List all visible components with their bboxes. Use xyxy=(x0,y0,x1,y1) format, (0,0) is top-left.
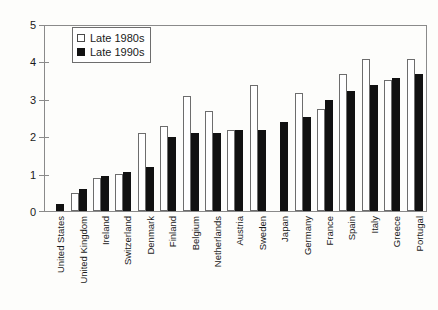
bar-group xyxy=(359,26,381,211)
legend-item: Late 1990s xyxy=(77,45,144,59)
bar-late-1990s xyxy=(347,91,355,211)
bar-late-1980s xyxy=(317,109,325,211)
bar-late-1990s xyxy=(191,133,199,211)
bar-group xyxy=(157,26,179,211)
x-axis-label-cell: United States xyxy=(45,214,67,306)
bar-group xyxy=(247,26,269,211)
x-axis-label-cell: Italy xyxy=(359,214,381,306)
bar-late-1990s xyxy=(303,117,311,211)
x-axis-tick-label: Finland xyxy=(168,216,178,247)
x-axis-tick-label: Japan xyxy=(280,216,290,242)
bar-group xyxy=(224,26,246,211)
y-axis-tick-label: 4 xyxy=(0,57,36,68)
x-axis-tick-label: Austria xyxy=(235,216,245,246)
x-axis-label-cell: Sweden xyxy=(247,214,269,306)
bar-late-1990s xyxy=(101,176,109,211)
x-axis-label-cell: Spain xyxy=(336,214,358,306)
bar-late-1980s xyxy=(138,133,146,211)
bar-late-1990s xyxy=(168,137,176,211)
x-axis-tick-label: Netherlands xyxy=(213,216,223,267)
x-axis-tick-label: Sweden xyxy=(258,216,268,250)
bar-group xyxy=(202,26,224,211)
y-axis-tick-label: 3 xyxy=(0,94,36,105)
x-axis-tick-label: Italy xyxy=(370,216,380,233)
bar-late-1980s xyxy=(227,130,235,211)
x-axis-label-cell: Belgium xyxy=(179,214,201,306)
bar-late-1990s xyxy=(415,74,423,211)
bar-late-1990s xyxy=(325,100,333,211)
bar-group xyxy=(314,26,336,211)
bar-late-1990s xyxy=(280,122,288,211)
bar-group xyxy=(381,26,403,211)
legend-item-label: Late 1990s xyxy=(90,47,144,58)
bar-late-1990s xyxy=(392,78,400,211)
y-axis: 012345 xyxy=(0,25,36,212)
bar-late-1990s xyxy=(56,204,64,211)
x-axis-label-cell: Germany xyxy=(291,214,313,306)
bar-late-1980s xyxy=(250,85,258,211)
bar-late-1980s xyxy=(295,93,303,211)
x-axis-label-cell: United Kingdom xyxy=(67,214,89,306)
bar-late-1980s xyxy=(205,111,213,211)
x-axis-tick-label: United States xyxy=(56,216,66,273)
legend-item: Late 1980s xyxy=(77,31,144,45)
bar-chart: 012345 United StatesUnited KingdomIrelan… xyxy=(0,0,438,310)
bar-group xyxy=(404,26,426,211)
x-axis-label-cell: Austria xyxy=(224,214,246,306)
x-axis-label-cell: Denmark xyxy=(135,214,157,306)
x-axis-label-cell: Greece xyxy=(381,214,403,306)
bar-late-1980s xyxy=(339,74,347,211)
x-axis-label-cell: Switzerland xyxy=(112,214,134,306)
bar-late-1990s xyxy=(123,172,131,211)
x-axis-tick-label: Portugal xyxy=(415,216,425,251)
x-axis-tick-label: France xyxy=(325,216,335,246)
bar-late-1980s xyxy=(93,178,101,211)
bar-late-1980s xyxy=(384,80,392,211)
bar-late-1980s xyxy=(71,193,79,212)
x-axis-tick-label: Germany xyxy=(303,216,313,255)
bar-late-1980s xyxy=(160,126,168,211)
x-axis-label-cell: France xyxy=(314,214,336,306)
filled-square-icon xyxy=(77,48,85,56)
bar-late-1980s xyxy=(183,96,191,211)
bar-group xyxy=(269,26,291,211)
open-square-icon xyxy=(77,34,85,42)
x-axis-tick-label: Switzerland xyxy=(123,216,133,265)
bar-late-1980s xyxy=(115,174,123,211)
x-axis-label-cell: Netherlands xyxy=(202,214,224,306)
x-axis-tick-label: Belgium xyxy=(191,216,201,250)
bar-late-1990s xyxy=(213,133,221,211)
x-axis-tick-label: Spain xyxy=(347,216,357,240)
y-axis-tick-label: 5 xyxy=(0,20,36,31)
legend-item-label: Late 1980s xyxy=(90,33,144,44)
bar-group xyxy=(45,26,67,211)
y-axis-tick-label: 1 xyxy=(0,169,36,180)
x-axis-label-cell: Portugal xyxy=(404,214,426,306)
x-axis-label-cell: Japan xyxy=(269,214,291,306)
x-axis: United StatesUnited KingdomIrelandSwitze… xyxy=(45,214,426,306)
x-axis-tick-label: Greece xyxy=(392,216,402,247)
x-axis-tick-label: United Kingdom xyxy=(79,216,89,284)
bar-late-1990s xyxy=(146,167,154,211)
x-axis-label-cell: Ireland xyxy=(90,214,112,306)
bar-late-1990s xyxy=(370,85,378,211)
bar-late-1990s xyxy=(235,130,243,211)
x-axis-tick-label: Ireland xyxy=(101,216,111,245)
y-axis-tick-label: 0 xyxy=(0,207,36,218)
chart-legend: Late 1980sLate 1990s xyxy=(72,27,151,63)
x-axis-tick-label: Denmark xyxy=(146,216,156,255)
bar-late-1980s xyxy=(407,59,415,211)
y-axis-tick-label: 2 xyxy=(0,132,36,143)
bar-group xyxy=(291,26,313,211)
bar-late-1980s xyxy=(362,59,370,211)
bar-group xyxy=(179,26,201,211)
x-axis-label-cell: Finland xyxy=(157,214,179,306)
bar-late-1990s xyxy=(79,189,87,211)
bar-late-1990s xyxy=(258,130,266,211)
bar-group xyxy=(336,26,358,211)
